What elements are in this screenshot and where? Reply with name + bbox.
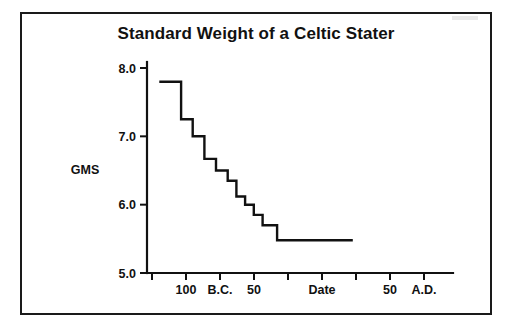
y-tick-label: 7.0	[119, 130, 136, 144]
y-tick-label: 5.0	[119, 267, 136, 281]
x-axis-ticks: 100B.C.50Date50A.D.	[152, 273, 437, 297]
chart-plot-area: GMS 8.07.06.05.0 100B.C.50Date50A.D.	[22, 14, 490, 313]
scan-artifact	[452, 16, 478, 20]
x-tick-label: B.C.	[208, 283, 233, 297]
x-tick-label: 50	[247, 283, 261, 297]
figure-frame: Standard Weight of a Celtic Stater GMS 8…	[20, 12, 492, 315]
x-tick-label: Date	[308, 283, 335, 297]
y-axis-label: GMS	[71, 163, 99, 177]
x-tick-label: A.D.	[412, 283, 437, 297]
y-axis-ticks: 8.07.06.05.0	[119, 62, 147, 281]
y-tick-label: 8.0	[119, 62, 136, 76]
x-tick-label: 50	[383, 283, 397, 297]
y-tick-label: 6.0	[119, 198, 136, 212]
x-tick-label: 100	[176, 283, 197, 297]
data-series-step-line	[159, 82, 352, 241]
